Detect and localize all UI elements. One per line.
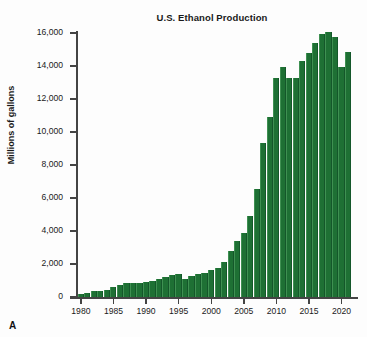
x-axis-tick xyxy=(178,298,179,304)
bar xyxy=(325,32,331,298)
y-axis-tick xyxy=(70,263,76,264)
bar xyxy=(143,282,149,297)
bar xyxy=(332,37,338,297)
chart-title: U.S. Ethanol Production xyxy=(77,12,347,23)
x-axis-tick xyxy=(211,298,212,304)
y-axis-tick xyxy=(70,32,76,33)
bar xyxy=(241,233,247,297)
bar xyxy=(110,287,116,297)
bar xyxy=(247,216,253,297)
x-axis-tick xyxy=(243,298,244,304)
y-axis-tick-label: 4,000 xyxy=(19,225,63,235)
bar xyxy=(273,78,279,297)
bar xyxy=(162,277,168,297)
y-axis-tick-label: 16,000 xyxy=(19,27,63,37)
bar xyxy=(319,34,325,297)
bar xyxy=(169,275,175,297)
bar xyxy=(182,279,188,297)
y-axis-label: Millions of gallons xyxy=(6,70,16,180)
bar xyxy=(104,290,110,297)
y-axis-tick xyxy=(70,296,76,297)
y-axis-tick xyxy=(70,65,76,66)
y-axis-line xyxy=(76,31,78,298)
y-axis-tick-label: 8,000 xyxy=(19,159,63,169)
bar xyxy=(221,262,227,297)
x-axis-tick xyxy=(276,298,277,304)
y-axis-tick xyxy=(70,131,76,132)
bar xyxy=(156,279,162,297)
bar xyxy=(201,273,207,297)
bar xyxy=(215,268,221,297)
x-axis-tick xyxy=(341,298,342,304)
bar xyxy=(208,270,214,297)
bar xyxy=(254,189,260,297)
bar xyxy=(293,78,299,297)
bar xyxy=(175,274,181,297)
x-axis-tick xyxy=(80,298,81,304)
bar xyxy=(312,43,318,297)
y-axis-tick xyxy=(70,164,76,165)
bar xyxy=(345,52,351,297)
x-axis-tick xyxy=(145,298,146,304)
bar xyxy=(228,251,234,297)
y-axis-tick xyxy=(70,197,76,198)
y-axis-tick xyxy=(70,230,76,231)
y-axis-tick-label: 12,000 xyxy=(19,93,63,103)
bar xyxy=(195,274,201,297)
bar xyxy=(149,281,155,297)
bar xyxy=(267,117,273,297)
bar xyxy=(280,67,286,297)
bar xyxy=(136,283,142,297)
bar xyxy=(117,285,123,297)
bar xyxy=(123,283,129,297)
x-axis-tick-label: 2020 xyxy=(322,306,362,316)
bar xyxy=(234,241,240,297)
bar xyxy=(299,61,305,297)
panel-label: A xyxy=(9,320,16,331)
plot-area xyxy=(77,33,352,297)
bar xyxy=(260,143,266,297)
x-axis-tick xyxy=(308,298,309,304)
y-axis-tick-label: 6,000 xyxy=(19,192,63,202)
y-axis-tick-label: 0 xyxy=(19,291,63,301)
y-axis-tick-label: 10,000 xyxy=(19,126,63,136)
figure-panel-a: U.S. Ethanol Production Millions of gall… xyxy=(0,0,367,337)
y-axis-tick-label: 2,000 xyxy=(19,258,63,268)
x-axis-tick xyxy=(113,298,114,304)
bar xyxy=(286,78,292,297)
y-axis-tick xyxy=(70,98,76,99)
bar xyxy=(130,283,136,297)
bar xyxy=(306,53,312,297)
bar xyxy=(338,67,344,297)
bar xyxy=(188,276,194,297)
y-axis-tick-label: 14,000 xyxy=(19,60,63,70)
